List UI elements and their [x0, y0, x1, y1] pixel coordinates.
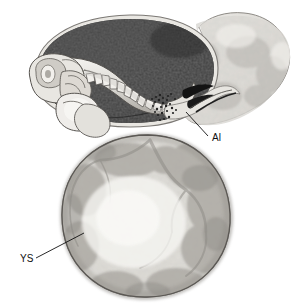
label-al-text: Al — [212, 132, 221, 143]
label-ys-text: YS — [20, 253, 34, 264]
embryo-illustration: Al YS — [0, 0, 295, 308]
yolk-sac — [55, 128, 240, 306]
yolk-sac-vascular-texture — [55, 128, 240, 306]
figure-container: Al YS — [0, 0, 295, 308]
